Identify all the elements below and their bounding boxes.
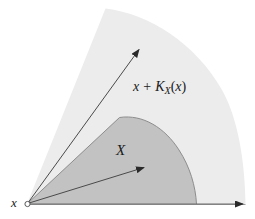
label-outer-close-paren: ) — [182, 79, 187, 95]
vertex-marker-icon — [25, 201, 30, 206]
label-origin: x — [10, 195, 17, 210]
label-inner-set: X — [115, 142, 126, 158]
figure-root: x X x+KX(x) — [0, 0, 255, 219]
label-outer-operator: + — [143, 79, 151, 94]
label-outer-term1: x — [132, 79, 140, 94]
geometric-diagram: x X x+KX(x) — [0, 0, 255, 219]
label-outer-func: K — [154, 79, 165, 94]
